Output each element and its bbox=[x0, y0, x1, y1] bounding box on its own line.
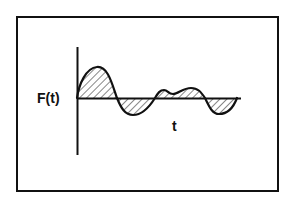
x-axis-label: t bbox=[172, 119, 177, 133]
hatched-area bbox=[77, 67, 237, 115]
y-axis-label: F(t) bbox=[37, 91, 60, 105]
